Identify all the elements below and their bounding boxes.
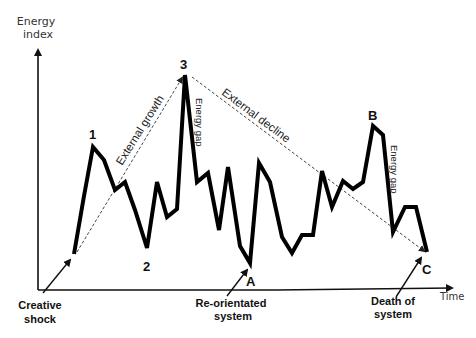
y-axis-label-2: index	[23, 28, 54, 41]
reoriented-label-1: Re-orientated	[196, 297, 267, 309]
external-growth-label: External growth	[114, 93, 167, 167]
x-axis-label: Time	[439, 291, 464, 302]
creative-shock-label-1: Creative	[18, 299, 61, 311]
creative-shock-arrow	[43, 260, 70, 293]
point-c-label: C	[422, 262, 432, 277]
point-2-label: 2	[143, 259, 150, 274]
point-1-label: 1	[89, 127, 96, 142]
point-b-label: B	[368, 108, 377, 123]
reoriented-label-2: system	[214, 310, 252, 322]
external-growth-line	[77, 78, 182, 252]
death-label-2: system	[374, 308, 412, 320]
point-3-label: 3	[180, 57, 187, 72]
y-axis-label: Energy	[17, 15, 56, 28]
energy-gap-label-2: Energy gap	[389, 145, 400, 194]
external-decline-label: External decline	[220, 86, 293, 145]
creative-shock-label-2: shock	[24, 313, 57, 325]
energy-gap-label-1: Energy gap	[194, 98, 205, 147]
x-axis-right	[276, 288, 452, 290]
death-label-1: Death of	[371, 295, 415, 307]
reoriented-arrow	[227, 270, 247, 296]
energy-lifecycle-diagram: Energy index Time 1 2 3 A B C External g…	[0, 0, 476, 338]
death-arrow	[396, 258, 421, 297]
point-a-label: A	[246, 274, 256, 289]
